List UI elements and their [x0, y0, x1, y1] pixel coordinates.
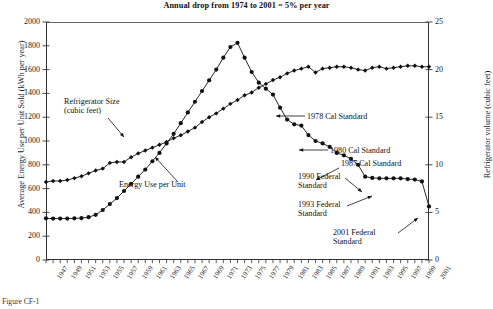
refrigerator-energy-chart: Annual drop from 1974 to 2001 = 5% per y… — [0, 0, 493, 309]
annotation-fed-1993: 1993 Federal Standard — [298, 200, 340, 219]
annotation-fed-1990: 1990 Federal Standard — [298, 172, 340, 191]
annotation-cal-1980: 1980 Cal Standard — [330, 146, 390, 155]
annotation-cal-1978: 1978 Cal Standard — [307, 112, 367, 121]
annotation-fed-2001: 2001 Federal Standard — [333, 228, 375, 247]
annotation-leader-lines — [108, 114, 418, 233]
figure-caption: Figure CF-1 — [2, 297, 39, 306]
data-series-group — [44, 41, 431, 221]
annotation-cal-1987: 1987 Cal Standard — [341, 159, 401, 168]
chart-graphics-layer — [0, 0, 493, 309]
annotation-refrigerator-size: Refrigerator Size (cubic feet) — [64, 97, 120, 116]
annotation-energy-use: Energy Use per Unit — [119, 180, 186, 189]
